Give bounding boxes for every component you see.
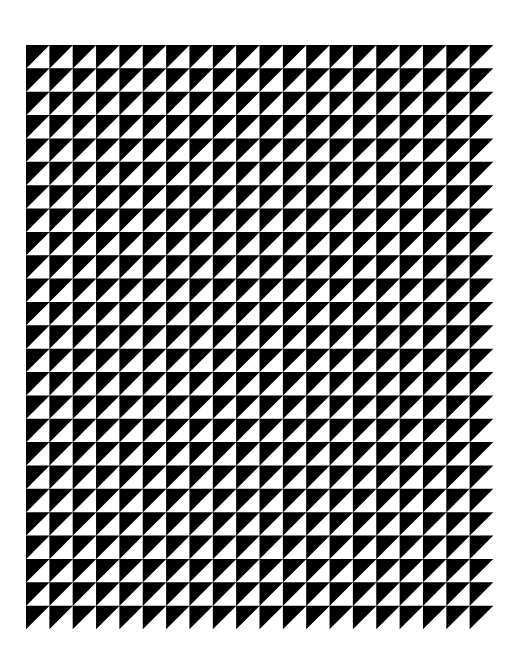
triangle-pattern-artwork bbox=[0, 0, 520, 657]
triangle-grid bbox=[26, 45, 493, 629]
